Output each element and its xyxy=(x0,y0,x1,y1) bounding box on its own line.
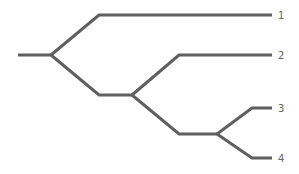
leaf-label-2: 2 xyxy=(278,50,284,61)
branch-2 xyxy=(132,55,272,95)
branch-3 xyxy=(217,108,272,134)
cladogram: 1 2 3 4 xyxy=(0,0,299,174)
internal-branch-b xyxy=(132,95,217,134)
branch-1 xyxy=(51,15,272,55)
leaf-label-3: 3 xyxy=(278,103,284,114)
internal-branch-a xyxy=(51,55,132,95)
branch-4 xyxy=(217,134,272,158)
leaf-label-4: 4 xyxy=(278,153,284,164)
leaf-label-1: 1 xyxy=(278,10,284,21)
